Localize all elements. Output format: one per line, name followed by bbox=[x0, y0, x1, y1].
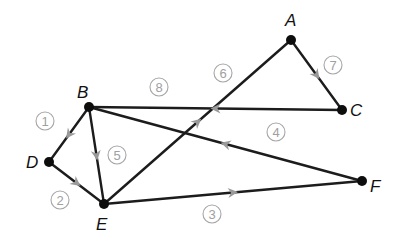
edge-order-number: 3 bbox=[208, 207, 215, 222]
vertex-B bbox=[84, 102, 94, 112]
vertex-label-E: E bbox=[96, 215, 108, 234]
vertex-label-D: D bbox=[26, 153, 38, 172]
edge-order-label: 6 bbox=[214, 64, 232, 82]
vertex-F bbox=[357, 176, 367, 186]
edge-order-label: 1 bbox=[36, 112, 54, 130]
edge-order-label: 8 bbox=[150, 78, 168, 96]
vertex-A bbox=[286, 35, 296, 45]
edge-order-number: 5 bbox=[113, 148, 120, 163]
edge-order-label: 4 bbox=[267, 123, 285, 141]
vertex-C bbox=[337, 105, 347, 115]
vertex-label-C: C bbox=[350, 101, 363, 120]
edge-order-label: 7 bbox=[324, 56, 342, 74]
edge-order-number: 1 bbox=[41, 114, 48, 129]
vertex-label-F: F bbox=[370, 177, 382, 196]
vertex-label-A: A bbox=[284, 11, 296, 30]
edge-order-label: 3 bbox=[203, 205, 221, 223]
edges-layer bbox=[49, 40, 362, 204]
vertex-label-B: B bbox=[77, 83, 88, 102]
edge-order-label: 5 bbox=[108, 146, 126, 164]
edge-order-number: 7 bbox=[329, 58, 336, 73]
labels-layer: 12345678ABCDEF bbox=[26, 11, 382, 234]
edge-order-label: 2 bbox=[51, 191, 69, 209]
edge-order-number: 2 bbox=[56, 193, 63, 208]
edge-order-number: 6 bbox=[219, 66, 226, 81]
edge-order-number: 8 bbox=[155, 80, 162, 95]
edge-order-number: 4 bbox=[272, 125, 279, 140]
vertex-E bbox=[99, 199, 109, 209]
graph-diagram: 12345678ABCDEF bbox=[0, 0, 399, 243]
vertex-D bbox=[44, 157, 54, 167]
